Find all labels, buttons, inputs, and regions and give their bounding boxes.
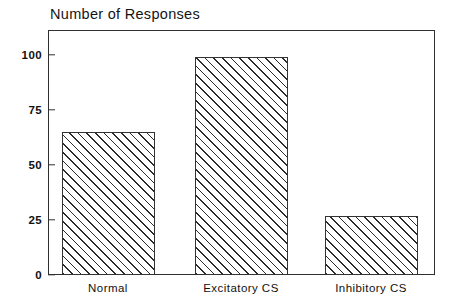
y-tick-label-0: 0 xyxy=(0,269,42,281)
bar-normal xyxy=(62,132,155,275)
y-tick-mark-25 xyxy=(48,219,55,220)
y-tick-label-100: 100 xyxy=(0,49,42,61)
bar-inhibitory-cs xyxy=(325,216,418,275)
x-axis-label-inhibitory-cs: Inhibitory CS xyxy=(335,282,407,294)
y-tick-label-75: 75 xyxy=(0,104,42,116)
bar-chart: Number of Responses 100 75 50 25 0 Norma… xyxy=(0,0,457,307)
bar-excitatory-cs xyxy=(195,57,288,275)
chart-title: Number of Responses xyxy=(50,6,200,22)
y-tick-label-25: 25 xyxy=(0,214,42,226)
y-tick-label-50: 50 xyxy=(0,159,42,171)
x-axis-label-excitatory-cs: Excitatory CS xyxy=(203,282,279,294)
y-tick-mark-100 xyxy=(48,54,55,55)
x-axis-label-normal: Normal xyxy=(88,282,128,294)
y-tick-mark-0 xyxy=(48,274,55,275)
y-tick-mark-75 xyxy=(48,109,55,110)
y-tick-mark-50 xyxy=(48,164,55,165)
